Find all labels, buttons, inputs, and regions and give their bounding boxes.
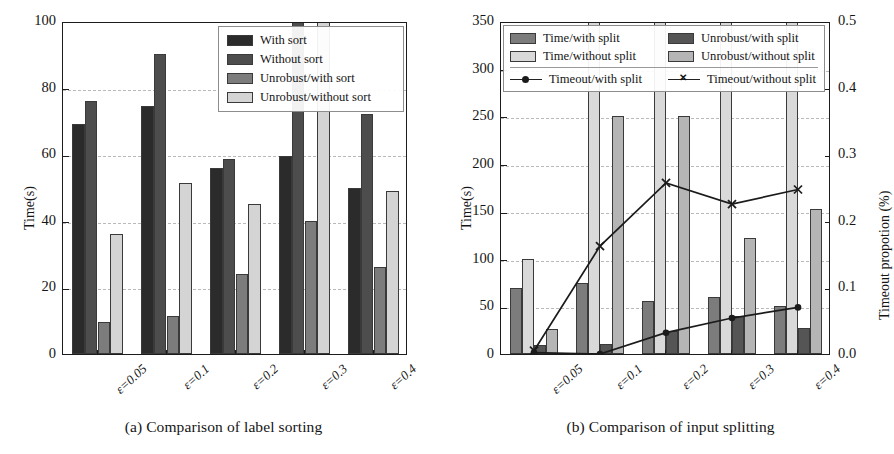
y-tick-mark — [63, 222, 69, 223]
bar — [248, 204, 261, 354]
legend-label: Unrobust/with split — [701, 31, 799, 46]
legend-row: Timeout/with split✕Timeout/without split — [510, 72, 818, 87]
panel-label-sorting: Time(s) (a) Comparison of label sorting … — [0, 0, 447, 454]
legend-cell: Time/with split — [510, 31, 668, 46]
x-tick-mark — [97, 350, 98, 355]
x-tick-label: ε=0.05 — [548, 361, 586, 397]
legend-swatch — [227, 54, 253, 65]
legend-cell: Unrobust/without split — [668, 49, 815, 64]
y-tick-label: 100 — [10, 12, 56, 29]
x-tick-label: ε=0.1 — [613, 361, 646, 393]
legend-line-swatch — [510, 74, 542, 85]
y2-tick-label: 0.3 — [838, 145, 878, 162]
bar — [98, 322, 111, 354]
marker-circle — [663, 329, 670, 336]
legend-swatch — [510, 51, 536, 62]
legend-label: With sort — [260, 33, 307, 48]
x-tick-label: ε=0.2 — [679, 361, 712, 393]
x-tick-label: ε=0.1 — [179, 361, 212, 393]
y2-tick-label: 0.4 — [838, 79, 878, 96]
y2-tick-label: 0.2 — [838, 212, 878, 229]
bar — [236, 274, 249, 354]
line-series-x — [534, 183, 798, 351]
bar — [279, 156, 292, 354]
legend-line-swatch: ✕ — [668, 74, 700, 85]
y2-tick-label: 0.5 — [838, 12, 878, 29]
legend-label: Time/with split — [543, 31, 620, 46]
marker-circle — [597, 351, 604, 355]
legend-label: Without sort — [260, 52, 323, 67]
y-tick-label: 0 — [448, 345, 494, 362]
bar — [348, 188, 361, 355]
legend-cell: Time/without split — [510, 49, 668, 64]
panel-a-caption: (a) Comparison of label sorting — [0, 418, 447, 436]
bar — [210, 168, 223, 354]
legend-swatch — [227, 35, 253, 46]
x-tick-mark — [373, 350, 374, 355]
marker-circle — [729, 315, 736, 322]
legend-cell: Unrobust/with split — [668, 31, 799, 46]
legend-swatch — [227, 73, 253, 84]
legend-cell: Timeout/with split — [510, 72, 668, 87]
marker-circle — [795, 304, 802, 311]
panel-b-caption: (b) Comparison of input splitting — [447, 418, 894, 436]
x-tick-label: ε=0.05 — [112, 361, 150, 397]
bar — [223, 159, 236, 354]
panel-a-legend: With sortWithout sortUnrobust/with sortU… — [218, 26, 404, 112]
y-tick-label: 20 — [10, 278, 56, 295]
y2-tick-label: 0.1 — [838, 278, 878, 295]
y-tick-label: 200 — [448, 155, 494, 172]
legend-label: Time/without split — [543, 49, 636, 64]
y-tick-label: 300 — [448, 60, 494, 77]
legend-label: Unrobust/with sort — [260, 71, 355, 86]
x-tick-label: ε=0.3 — [745, 361, 778, 393]
bar — [386, 191, 399, 354]
legend-label: Timeout/with split — [549, 72, 642, 87]
bar — [72, 124, 85, 354]
legend-row: Unrobust/without sort — [227, 90, 395, 105]
bar — [154, 54, 167, 354]
panel-input-splitting: Time(s) Timeout propotion (%) (b) Compar… — [447, 0, 894, 454]
y-tick-mark — [63, 289, 69, 290]
legend-swatch — [668, 51, 694, 62]
legend-swatch — [510, 33, 536, 44]
y-tick-mark — [63, 89, 69, 90]
figure-root: Time(s) (a) Comparison of label sorting … — [0, 0, 894, 454]
y-tick-label: 350 — [448, 12, 494, 29]
y-tick-label: 100 — [448, 250, 494, 267]
legend-label: Unrobust/without sort — [260, 90, 371, 105]
y-tick-label: 40 — [10, 212, 56, 229]
panel-b-legend: Time/with splitUnrobust/with splitTime/w… — [503, 25, 825, 92]
y-tick-label: 60 — [10, 145, 56, 162]
legend-swatch — [668, 33, 694, 44]
panel-b-secondary-y-axis-label: Timeout propotion (%) — [877, 191, 893, 320]
x-tick-label: ε=0.4 — [386, 361, 419, 393]
legend-row: Unrobust/with sort — [227, 71, 395, 86]
x-tick-mark — [166, 350, 167, 355]
x-tick-mark — [235, 350, 236, 355]
legend-label: Unrobust/without split — [701, 49, 815, 64]
bar — [141, 106, 154, 354]
bar — [179, 183, 192, 354]
bar — [361, 114, 374, 354]
legend-cell: ✕Timeout/without split — [668, 72, 816, 87]
legend-row: Without sort — [227, 52, 395, 67]
y-tick-mark — [63, 22, 69, 23]
x-tick-mark — [304, 350, 305, 355]
x-tick-label: ε=0.4 — [811, 361, 844, 393]
bar — [305, 221, 318, 354]
legend-row: Time/with splitUnrobust/with split — [510, 31, 818, 46]
y-tick-label: 50 — [448, 297, 494, 314]
legend-swatch — [227, 92, 253, 103]
y-tick-label: 150 — [448, 202, 494, 219]
bar — [110, 234, 123, 354]
bar — [85, 101, 98, 354]
x-tick-label: ε=0.2 — [248, 361, 281, 393]
y-tick-label: 0 — [10, 345, 56, 362]
bar — [374, 267, 387, 354]
legend-marker-x: ✕ — [679, 74, 687, 82]
legend-divider — [510, 67, 818, 68]
y2-tick-label: 0.0 — [838, 345, 878, 362]
gridline — [63, 156, 406, 157]
marker-x — [596, 242, 604, 250]
